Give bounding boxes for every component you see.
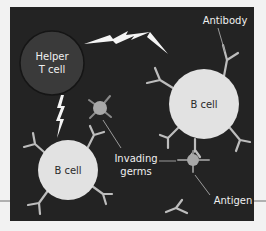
antigen-label: Antigen bbox=[214, 195, 253, 206]
b-cell-left-label: B cell bbox=[54, 165, 81, 176]
antibody-label: Antibody bbox=[203, 15, 248, 26]
helper-t-cell bbox=[20, 31, 84, 95]
helper-t-cell-label-line1: Helper bbox=[35, 51, 69, 62]
helper-t-cell-label-line2: T cell bbox=[38, 64, 66, 75]
invading-germs-label-line2: germs bbox=[120, 166, 151, 177]
b-cell-right-label: B cell bbox=[190, 99, 217, 110]
invading-germs-label-line1: Invading bbox=[114, 153, 157, 164]
immune-response-diagram: Helper T cell B cell B cell bbox=[0, 0, 266, 231]
